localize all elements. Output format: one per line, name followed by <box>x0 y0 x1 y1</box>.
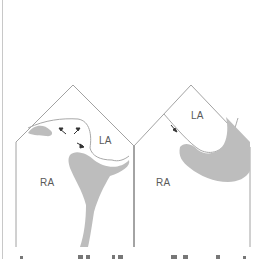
left-upper-mass <box>28 126 52 136</box>
left-panel <box>16 85 134 247</box>
right-mass <box>179 117 250 182</box>
left-la-label: LA <box>99 135 112 146</box>
right-ra-label: RA <box>156 177 171 188</box>
echo-diagram <box>0 0 262 259</box>
left-ra-label: RA <box>40 177 55 188</box>
left-septal-mass <box>69 152 130 247</box>
caption-fragments <box>0 253 262 259</box>
left-arrows <box>59 128 84 148</box>
cropped-caption <box>0 253 262 259</box>
arrow-head-icon <box>80 144 84 148</box>
right-la-label: LA <box>191 110 204 121</box>
arrow-head-icon <box>76 128 80 131</box>
